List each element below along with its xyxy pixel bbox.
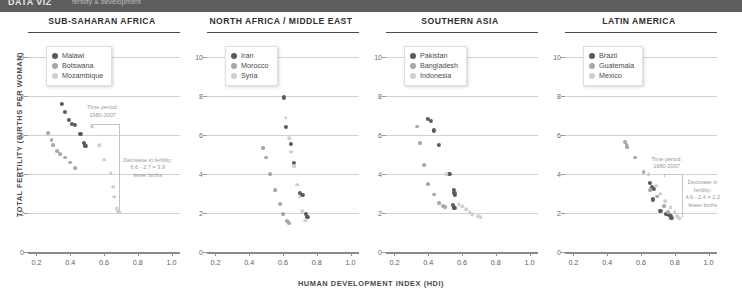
time-period-value: 1980-2007 [651, 163, 682, 171]
data-point [444, 172, 448, 176]
x-tick-mark [215, 252, 216, 256]
data-point [46, 131, 50, 135]
y-tick-label: 4 [20, 171, 24, 178]
x-tick-mark [675, 252, 676, 256]
data-point [112, 195, 116, 199]
data-point [669, 205, 673, 209]
legend-item[interactable]: Guatemala [589, 61, 634, 71]
data-point [73, 166, 77, 170]
legend-swatch-icon [410, 53, 416, 59]
decrease-annotation-line: fewer births [685, 202, 720, 210]
legend-item[interactable]: Syria [231, 71, 269, 81]
y-tick-label: 0 [557, 249, 561, 256]
data-point [437, 143, 441, 147]
x-tick-mark [138, 252, 139, 256]
decrease-annotation-line: 6.6 - 2.7 = 3.9 [123, 164, 172, 172]
x-tick-mark [462, 252, 463, 256]
panel-title-rule [386, 32, 538, 33]
top-banner: DATA VIZ fertility & development [0, 0, 742, 12]
time-period-annotation: Time period:1980-2007 [651, 156, 682, 171]
y-tick-label: 2 [378, 210, 382, 217]
legend-item[interactable]: Morocco [231, 61, 269, 71]
x-tick-mark [70, 252, 71, 256]
panel-title: LATIN AMERICA [551, 16, 727, 26]
data-point [415, 125, 419, 129]
y-tick-mark [203, 174, 207, 175]
legend-swatch-icon [52, 53, 58, 59]
x-tick-label: 0.8 [491, 258, 501, 267]
data-point [268, 172, 272, 176]
legend-swatch-icon [589, 73, 595, 79]
time-period-label: Time period: [87, 104, 118, 112]
data-point [292, 165, 296, 169]
y-tick-mark [561, 213, 565, 214]
x-tick-label: 0.6 [99, 258, 109, 267]
y-tick-mark [24, 57, 28, 58]
data-point [279, 202, 283, 206]
gridline [207, 135, 359, 136]
data-point [73, 122, 77, 126]
legend-item[interactable]: Bangladesh [410, 61, 458, 71]
legend-label: Guatemala [599, 61, 634, 70]
x-tick-label: 0.8 [312, 258, 322, 267]
legend-item[interactable]: Iran [231, 51, 269, 61]
x-tick-label: 0.4 [423, 258, 433, 267]
legend-item[interactable]: Mexico [589, 71, 634, 81]
gridline [386, 96, 538, 97]
gridline [386, 174, 538, 175]
panel-title-rule [207, 32, 359, 33]
panel-title: SUB-SAHARAN AFRICA [14, 16, 190, 26]
y-tick-mark [24, 174, 28, 175]
legend-swatch-icon [589, 63, 595, 69]
legend-swatch-icon [231, 73, 237, 79]
legend-item[interactable]: Mozambique [52, 71, 103, 81]
x-tick-label: 0.4 [244, 258, 254, 267]
gridline [28, 135, 180, 136]
legend-item[interactable]: Pakistan [410, 51, 458, 61]
y-tick-label: 6 [199, 132, 203, 139]
x-tick-mark [709, 252, 710, 256]
legend-item[interactable]: Brazil [589, 51, 634, 61]
x-tick-label: 0.6 [457, 258, 467, 267]
x-tick-mark [496, 252, 497, 256]
x-tick-label: 0.4 [602, 258, 612, 267]
data-point [677, 216, 681, 220]
y-tick-label: 2 [557, 210, 561, 217]
data-point [470, 212, 474, 216]
data-point [460, 204, 464, 208]
legend-label: Pakistan [420, 51, 448, 60]
panel-title-rule [565, 32, 717, 33]
y-tick-label: 8 [557, 93, 561, 100]
time-period-label: Time period: [651, 156, 682, 164]
time-period-value: 1980-2007 [87, 112, 118, 120]
x-tick-mark [283, 252, 284, 256]
data-point [298, 195, 302, 199]
x-tick-mark [36, 252, 37, 256]
y-tick-label: 6 [557, 132, 561, 139]
plot-area: 02468100.20.40.60.81.0IranMoroccoSyria [207, 38, 359, 252]
legend-label: Mexico [599, 71, 622, 80]
y-tick-label: 6 [20, 132, 24, 139]
legend-label: Botswana [62, 61, 94, 70]
legend-swatch-icon [410, 73, 416, 79]
legend-item[interactable]: Indonesia [410, 71, 458, 81]
data-point [264, 156, 268, 160]
data-point [303, 219, 307, 223]
data-point [659, 192, 663, 196]
x-tick-label: 0.8 [670, 258, 680, 267]
decrease-annotation: Decrease in fertility:6.6 - 2.7 = 3.9few… [123, 157, 172, 180]
legend-item[interactable]: Botswana [52, 61, 103, 71]
y-tick-label: 8 [199, 93, 203, 100]
legend-item[interactable]: Malawi [52, 51, 103, 61]
y-tick-mark [382, 135, 386, 136]
legend-label: Brazil [599, 51, 617, 60]
legend-swatch-icon [52, 73, 58, 79]
data-point [418, 141, 422, 145]
gridline [28, 96, 180, 97]
chart-panel: NORTH AFRICA / MIDDLE EAST02468100.20.40… [193, 16, 369, 276]
data-point [287, 136, 291, 140]
gridline [565, 96, 717, 97]
data-point [261, 146, 265, 150]
x-tick-mark [249, 252, 250, 256]
legend-label: Indonesia [420, 71, 451, 80]
